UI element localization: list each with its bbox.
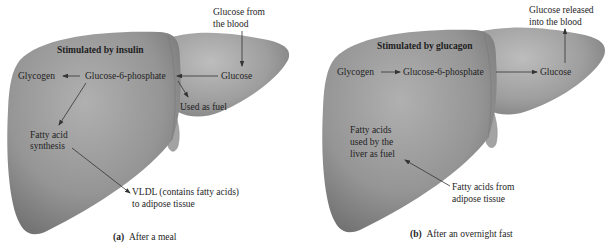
fatty-acid-line1-a: Fatty acid [30,130,68,140]
liver-metabolism-diagram: Stimulated by insulin Glycogen Glucose-6… [0,0,607,251]
fatty-acid-line2-a: synthesis [30,141,65,151]
caption-text-b: After an overnight fast [426,229,513,239]
fatty-acids-line3-b: liver as fuel [350,149,395,159]
caption-letter-b: (b) [410,229,422,240]
fatty-acids-line1-b: Fatty acids [350,125,392,135]
glucose-source-line2: the blood [213,19,249,29]
vldl-line2: to adipose tissue [132,199,195,209]
glucose-label-a: Glucose [221,71,252,81]
caption-text-a: After a meal [129,232,177,242]
glucose-release-line1: Glucose released [529,5,594,15]
g6p-label-a: Glucose-6-phosphate [85,71,166,81]
glucose-source-line1: Glucose from [213,7,266,17]
g6p-label-b: Glucose-6-phosphate [403,67,484,77]
stimulus-label-b: Stimulated by glucagon [377,41,473,51]
glucose-release-line2: into the blood [529,17,582,27]
glycogen-label-b: Glycogen [337,67,374,77]
svg-text:(a) After a meal: (a) After a meal [113,232,177,243]
caption-letter-a: (a) [113,232,124,243]
glycogen-label-a: Glycogen [18,71,55,81]
panel-b: Stimulated by glucagon Glycogen Glucose-… [322,5,605,240]
glucose-label-b: Glucose [540,67,571,77]
panel-a: Stimulated by insulin Glycogen Glucose-6… [7,7,289,243]
vldl-line1: VLDL (contains fatty acids) [132,187,239,198]
svg-text:(b) After an overnight f: (b) After an overnight fast [410,229,513,240]
fuel-label-a: Used as fuel [180,102,227,112]
adipose-line2: adipose tissue [452,194,505,204]
stimulus-label-a: Stimulated by insulin [57,45,144,55]
fatty-acids-line2-b: used by the [350,137,393,147]
adipose-line1: Fatty acids from [452,182,515,192]
